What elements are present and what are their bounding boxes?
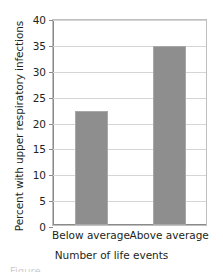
y-axis-tick [49, 20, 53, 21]
y-axis-tick-label: 5 [39, 196, 46, 207]
y-axis-tick [49, 175, 53, 176]
x-axis-title: Number of life events [0, 249, 223, 261]
y-axis-tick [49, 98, 53, 99]
y-axis-tick-label: 25 [33, 93, 46, 104]
bar [75, 111, 108, 225]
y-axis-tick [49, 201, 53, 202]
x-axis-category-label: Below average [52, 229, 130, 241]
y-axis-tick [49, 149, 53, 150]
y-axis-tick-label: 40 [33, 15, 46, 26]
y-axis-tick-label: 20 [33, 119, 46, 130]
bar [153, 46, 186, 225]
bar-chart-figure: Percent with upper respiratory infection… [0, 0, 223, 272]
y-axis-tick-label: 0 [39, 222, 46, 233]
y-axis-tick [49, 227, 53, 228]
y-axis-line [53, 20, 54, 225]
y-axis-tick-label: 15 [33, 144, 46, 155]
plot-area: 0510152025303540 [52, 19, 207, 226]
y-axis-tick [49, 72, 53, 73]
y-axis-tick-label: 35 [33, 41, 46, 52]
y-axis-tick-label: 10 [33, 170, 46, 181]
y-axis-tick-label: 30 [33, 67, 46, 78]
y-axis-tick [49, 46, 53, 47]
y-axis-tick [49, 124, 53, 125]
y-axis-title: Percent with upper respiratory infection… [13, 11, 25, 241]
gridline [53, 20, 206, 21]
x-axis-category-label: Above average [130, 229, 208, 241]
figure-caption-remnant: Figure [10, 266, 130, 272]
